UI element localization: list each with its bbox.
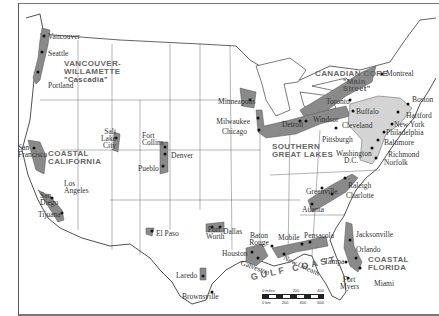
- city-new-york: New York: [394, 121, 424, 128]
- region-name: VANCOUVER-WILLAMETTE: [64, 60, 132, 76]
- city-seattle: Seattle: [48, 50, 68, 57]
- city-cleveland: Cleveland: [342, 122, 372, 129]
- city-pensacola: Pensacola: [304, 232, 334, 239]
- city-laredo: Laredo: [176, 272, 197, 279]
- city-baton-rouge: Baton Rouge: [248, 232, 270, 246]
- region-label-canadian-core: CANADIAN CORE "Main Street": [315, 70, 388, 92]
- city-vancouver: Vancouver: [48, 33, 80, 40]
- city-fort-myers: Fort Myers: [340, 276, 358, 290]
- city-portland: Portland: [48, 82, 73, 89]
- city-atlanta: Atlanta: [302, 206, 324, 213]
- region-alt-name: "Cascadia": [64, 76, 132, 83]
- city-baltimore: Baltimore: [384, 139, 414, 146]
- city-chicago: Chicago: [222, 128, 247, 135]
- city-hartford: Hartford: [406, 112, 432, 119]
- region-label-vancouver-willamette: VANCOUVER-WILLAMETTE "Cascadia": [64, 60, 132, 83]
- city-philadelphia: Philadelphia: [386, 129, 424, 136]
- city-windsor: Windsor: [313, 116, 339, 123]
- scale-miles-tick: 200: [293, 288, 300, 293]
- city-el-paso: El Paso: [156, 230, 179, 237]
- city-houston: Houston: [222, 250, 247, 257]
- region-label-southern-great-lakes: SOUTHERN GREAT LAKES: [272, 143, 336, 159]
- city-norfolk: Norfolk: [384, 159, 408, 166]
- city-san-diego: San Diego: [40, 192, 60, 206]
- scale-km-tick: 400: [300, 300, 307, 305]
- city-fort-worth: Fort Worth: [206, 226, 222, 240]
- city-toronto: Toronto: [326, 98, 350, 105]
- city-orlando: Orlando: [356, 246, 381, 253]
- city-detroit: Detroit: [282, 121, 303, 128]
- city-greenville: Greenville: [306, 188, 338, 195]
- city-boston: Boston: [412, 96, 433, 103]
- scale-miles-label: 0 miles: [262, 288, 275, 293]
- city-minneapolis: Minneapolis: [218, 98, 256, 105]
- city-mobile: Mobile: [278, 234, 300, 241]
- city-denver: Denver: [171, 152, 193, 159]
- city-washington-dc: Washington D.C.: [336, 150, 366, 164]
- city-jacksonville: Jacksonville: [356, 231, 393, 238]
- scale-km-tick: 200: [282, 300, 289, 305]
- region-laredo: [200, 268, 206, 280]
- city-san-francisco: San Francisco: [18, 144, 38, 158]
- city-tampa: Tampa: [324, 258, 344, 265]
- region-label-coastal-california: COASTAL CALIFORNIA: [48, 150, 98, 166]
- city-charlotte: Charlotte: [346, 192, 374, 199]
- city-fort-collins: Fort Collins: [142, 132, 166, 146]
- city-pueblo: Pueblo: [138, 165, 159, 172]
- city-pittsburgh: Pittsburgh: [322, 136, 353, 143]
- scale-miles-tick: 400: [317, 288, 324, 293]
- scale-miles-row: 0 miles 200 400: [262, 288, 324, 293]
- city-richmond: Richmond: [388, 151, 419, 158]
- city-brownsville: Brownsville: [182, 293, 219, 300]
- city-salt-lake-city: Salt Lake City: [88, 128, 116, 149]
- city-montreal: Montreal: [386, 70, 414, 77]
- scale-km-label: 0 km: [262, 300, 271, 305]
- scale-bar-graphic: [262, 294, 324, 299]
- region-label-coastal-florida: COASTAL FLORIDA: [368, 256, 418, 272]
- scale-km-row: 0 km 200 400 600: [262, 300, 324, 305]
- city-miami: Miami: [374, 280, 394, 287]
- region-alt-name: "Main Street": [343, 78, 373, 92]
- scale-km-tick: 600: [317, 300, 324, 305]
- city-los-angeles: Los Angeles: [64, 180, 88, 194]
- city-raleigh: Raleigh: [348, 182, 371, 189]
- scale-bar: 0 miles 200 400 0 km 200 400 600: [262, 288, 324, 305]
- city-dallas: Dallas: [223, 228, 242, 235]
- city-milwaukee: Milwaukee: [216, 118, 250, 125]
- city-buffalo: Buffalo: [356, 108, 379, 115]
- city-tijuana: Tijuana: [38, 211, 61, 218]
